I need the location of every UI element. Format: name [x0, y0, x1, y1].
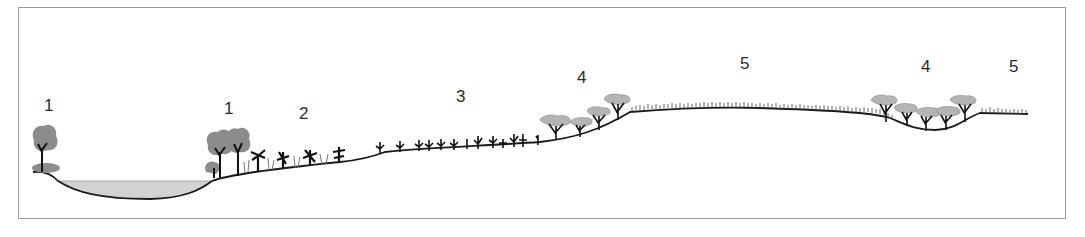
tree-icon — [205, 128, 250, 178]
zone-label-2: 2 — [299, 105, 308, 122]
zone-label-1-left: 1 — [44, 97, 53, 114]
zone-label-4-left: 4 — [577, 69, 586, 86]
shrub-icon — [251, 147, 345, 172]
zone-label-5-right: 5 — [1009, 58, 1018, 75]
tree-icon — [32, 125, 60, 173]
zone-label-1-right: 1 — [224, 100, 233, 117]
water-body — [58, 181, 212, 199]
zone-label-5-left: 5 — [740, 55, 749, 72]
flat-top-tree-icon — [871, 95, 976, 131]
sapling-icon — [376, 134, 538, 153]
landscape-profile — [0, 0, 1085, 237]
zone-label-4-right: 4 — [921, 58, 930, 75]
zone-label-3: 3 — [456, 88, 465, 105]
